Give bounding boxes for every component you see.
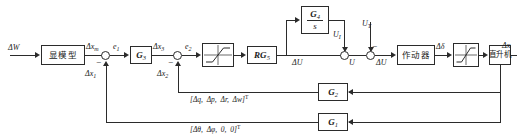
wire-delta-u [277, 55, 344, 56]
arrowhead-heli-in [483, 52, 488, 58]
summing-junction-2[interactable] [173, 51, 182, 60]
block-g2[interactable]: G2 [318, 83, 348, 101]
wire-g2-out [178, 92, 318, 93]
signal-label-x2: Δx2 [157, 70, 168, 78]
wire-e1 [110, 55, 125, 56]
block-saturation-mid[interactable] [202, 43, 234, 67]
block-g1-label: G1 [328, 118, 338, 127]
wire-u [349, 55, 366, 56]
signal-label-delta-u-in: ΔU [292, 59, 302, 67]
summing-junction-delta-u[interactable] [366, 51, 375, 60]
wire-input [10, 55, 36, 56]
block-saturation-right[interactable] [453, 43, 479, 67]
signal-label-x1: Δx1 [85, 70, 96, 78]
sum-ut-minus-sign: − [372, 42, 377, 51]
block-rg5-label: RG5 [254, 51, 270, 60]
arrowhead-g1-in [348, 119, 353, 125]
arrowhead-sum1-fb [103, 61, 109, 66]
signal-label-e2: e2 [185, 43, 192, 51]
wire-xm [85, 55, 102, 56]
feedback-vector-lower: [Δθ, Δφ, 0, 0]T [190, 126, 240, 134]
signal-label-delta-u-out: ΔU [376, 59, 386, 67]
arrowhead-g2-in [348, 89, 353, 95]
block-actuator-label: 作动器 [402, 51, 430, 60]
block-actuator[interactable]: 作动器 [397, 45, 435, 65]
block-diagram-canvas: ΔW 显模型 Δxm − e1 G3 Δx3 − e2 [0, 0, 517, 140]
arrowhead-input [35, 52, 40, 58]
wire-g1-out [106, 122, 318, 123]
wire-fb-upper [349, 92, 501, 93]
arrowhead-sat2-in [447, 52, 452, 58]
signal-label-x3: Δx3 [153, 43, 164, 51]
arrowhead-g4-in [295, 17, 300, 23]
wire-output-bus-down [500, 55, 501, 122]
signal-label-input: ΔW [8, 44, 19, 52]
block-explicit-model[interactable]: 显模型 [41, 45, 85, 65]
signal-label-ui: UI [333, 31, 341, 39]
block-g2-label: G2 [328, 88, 338, 97]
block-g4-fraction: G4 s [307, 10, 323, 31]
signal-label-u: U [349, 59, 355, 67]
wire-x2-riser [178, 64, 179, 92]
wire-x3 [152, 55, 174, 56]
block-g4-over-s[interactable]: G4 s [301, 6, 329, 34]
wire-g4-out [329, 20, 345, 21]
signal-label-output: Δx [502, 42, 510, 50]
sum1-minus-sign: − [96, 58, 101, 67]
wire-output [511, 55, 517, 56]
arrowhead-e2 [196, 52, 201, 58]
arrowhead-sum2-fb [175, 61, 181, 66]
block-g4-numerator: G4 [307, 10, 323, 21]
arrowhead-actuator-in [391, 52, 396, 58]
summing-junction-u[interactable] [340, 51, 349, 60]
signal-label-e1: e1 [113, 43, 120, 51]
feedback-vector-upper: [Δq, Δp, Δr, Δw]T [190, 96, 248, 104]
signal-label-delta-delta: Δδ [436, 43, 444, 51]
block-explicit-model-label: 显模型 [49, 51, 77, 60]
saturation-curve-icon [203, 44, 233, 66]
signal-label-ut: UT [362, 20, 371, 28]
block-g3[interactable]: G3 [130, 46, 152, 64]
signal-label-xm: Δxm [86, 43, 99, 51]
sum2-minus-sign: − [168, 58, 173, 67]
wire-fb-lower [349, 122, 501, 123]
wire-x1-riser [106, 64, 107, 122]
arrowhead-e1 [124, 52, 129, 58]
block-g4-denominator: s [313, 21, 317, 31]
summing-junction-1[interactable] [101, 51, 110, 60]
block-helicopter-label: 直升机 [489, 51, 511, 59]
block-rg5[interactable]: RG5 [247, 46, 277, 64]
block-g1[interactable]: G1 [318, 113, 348, 131]
saturation-curve-icon-2 [454, 44, 478, 66]
arrowhead-rg5-in [241, 52, 246, 58]
wire-tap-to-g4 [286, 20, 287, 55]
block-g3-label: G3 [136, 51, 146, 60]
